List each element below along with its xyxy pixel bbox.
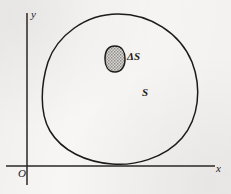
subregion-delta-s-shape	[105, 46, 125, 72]
figure-canvas: y x O ΔS S	[0, 0, 231, 194]
region-s-outline	[42, 14, 197, 164]
delta-s-label: ΔS	[127, 51, 140, 62]
origin-label: O	[18, 168, 26, 179]
y-axis-label: y	[31, 9, 36, 20]
region-s-label: S	[142, 87, 148, 98]
x-axis-label: x	[216, 163, 221, 174]
diagram-svg	[0, 0, 231, 194]
